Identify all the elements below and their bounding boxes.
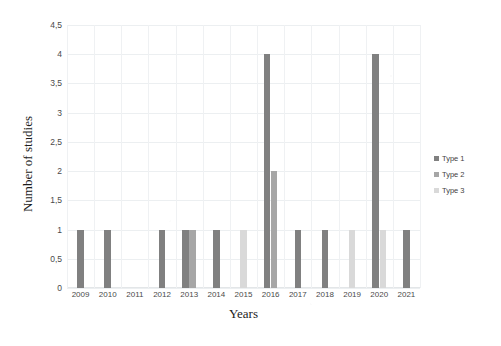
- x-axis-tick-label: 2009: [72, 290, 90, 299]
- bar-type-1-2010: [104, 230, 111, 288]
- x-axis-tick-labels: 2009201020112012201320142015201620172018…: [67, 290, 420, 304]
- gridline-vertical: [420, 25, 421, 288]
- bar-type-1-2018: [322, 230, 329, 288]
- y-axis-tick-label: 4,5: [50, 20, 62, 30]
- x-axis-tick-label: 2018: [316, 290, 334, 299]
- bar-type-1-2016: [264, 54, 271, 288]
- x-axis-tick-label: 2013: [180, 290, 198, 299]
- legend-item-type-2[interactable]: Type 2: [434, 166, 498, 182]
- y-axis-tick-label: 0: [57, 283, 62, 293]
- bars-layer: [67, 25, 420, 288]
- x-axis-tick-label: 2021: [398, 290, 416, 299]
- y-axis-tick-label: 3: [57, 108, 62, 118]
- plot-area: [67, 25, 420, 288]
- legend-item-type-3[interactable]: Type 3: [434, 182, 498, 198]
- y-axis-tick-label: 3,5: [50, 78, 62, 88]
- legend: Type 1Type 2Type 3: [434, 150, 498, 198]
- bar-type-2-2016: [271, 171, 278, 288]
- bar-type-1-2009: [77, 230, 84, 288]
- y-axis-tick-label: 1,5: [50, 195, 62, 205]
- bar-type-1-2021: [403, 230, 410, 288]
- legend-label: Type 2: [442, 170, 465, 179]
- legend-swatch-icon: [434, 156, 439, 161]
- legend-label: Type 1: [442, 154, 465, 163]
- gridline-horizontal: [67, 288, 420, 289]
- x-axis-title: Years: [67, 306, 420, 322]
- y-axis-tick-label: 1: [57, 225, 62, 235]
- y-axis-tick-label: 2: [57, 166, 62, 176]
- bar-chart: 00,511,522,533,544,5 2009201020112012201…: [0, 0, 501, 346]
- x-axis-tick-label: 2016: [262, 290, 280, 299]
- bar-type-2-2013: [189, 230, 196, 288]
- bar-type-1-2013: [182, 230, 189, 288]
- x-axis-tick-label: 2019: [343, 290, 361, 299]
- x-axis-tick-label: 2012: [153, 290, 171, 299]
- x-axis-tick-label: 2011: [126, 290, 143, 299]
- bar-type-3-2020: [380, 230, 387, 288]
- bar-type-1-2012: [159, 230, 166, 288]
- legend-swatch-icon: [434, 188, 439, 193]
- y-axis-tick-label: 0,5: [50, 254, 62, 264]
- legend-item-type-1[interactable]: Type 1: [434, 150, 498, 166]
- x-axis-tick-label: 2020: [370, 290, 388, 299]
- x-axis-tick-label: 2014: [207, 290, 225, 299]
- bar-type-1-2017: [295, 230, 302, 288]
- x-axis-tick-label: 2017: [289, 290, 307, 299]
- legend-swatch-icon: [434, 172, 439, 177]
- bar-type-1-2014: [213, 230, 220, 288]
- bar-type-3-2019: [349, 230, 356, 288]
- x-axis-tick-label: 2015: [235, 290, 253, 299]
- x-axis-tick-label: 2010: [99, 290, 117, 299]
- y-axis-title: Number of studies: [20, 79, 36, 249]
- bar-type-3-2015: [240, 230, 247, 288]
- y-axis-tick-label: 4: [57, 49, 62, 59]
- y-axis-tick-labels: 00,511,522,533,544,5: [34, 25, 62, 288]
- y-axis-tick-label: 2,5: [50, 137, 62, 147]
- bar-type-1-2020: [372, 54, 379, 288]
- legend-label: Type 3: [442, 186, 465, 195]
